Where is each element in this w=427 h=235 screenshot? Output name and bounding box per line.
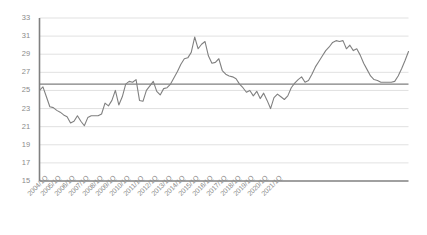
- y-tick-label: 27: [14, 67, 30, 76]
- y-tick-label: 25: [14, 85, 30, 94]
- y-tick-label: 21: [14, 122, 30, 131]
- y-tick-label: 19: [14, 140, 30, 149]
- series-polyline: [40, 37, 409, 126]
- y-tick-label: 17: [14, 158, 30, 167]
- y-tick-label: 15: [14, 176, 30, 185]
- chart-container: 15171921232527293133 2004/1Q2005/1Q2006/…: [0, 0, 427, 235]
- chart-axes: [40, 18, 409, 181]
- y-tick-label: 23: [14, 104, 30, 113]
- gridlines: [40, 18, 409, 163]
- y-tick-label: 33: [14, 13, 30, 22]
- chart-plot-area: [0, 0, 427, 235]
- y-tick-label: 31: [14, 31, 30, 40]
- y-tick-label: 29: [14, 49, 30, 58]
- data-series-line: [40, 37, 409, 126]
